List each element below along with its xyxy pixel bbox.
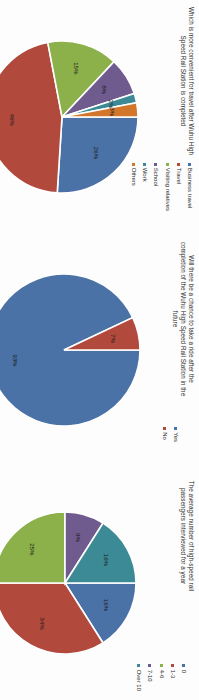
legend-swatch-icon bbox=[148, 664, 151, 667]
chart-legend: YesNo bbox=[161, 427, 179, 442]
legend-item[interactable]: Over 10 bbox=[135, 664, 142, 691]
pie-svg bbox=[0, 41, 138, 193]
legend-swatch-icon bbox=[160, 664, 163, 667]
chart-legend: Business travelTravelVisiting relativesS… bbox=[130, 163, 193, 211]
legend-item-label: Business travel bbox=[186, 168, 193, 209]
pie-chart-container: 16%34%25%9%16% bbox=[0, 466, 136, 699]
legend-swatch-icon bbox=[143, 163, 146, 166]
legend-item-label: Over 10 bbox=[135, 670, 142, 691]
legend-item[interactable]: Travel bbox=[175, 163, 182, 211]
chart-title: The average number of high-speed rail pa… bbox=[179, 476, 195, 596]
chart-title: Will there be a chance to take a ride af… bbox=[170, 239, 195, 399]
legend-item-label: 7-10 bbox=[146, 670, 153, 682]
chart-title: Which is more convenient for travel afte… bbox=[179, 6, 195, 156]
legend-item-label: School bbox=[152, 168, 159, 186]
legend-swatch-icon bbox=[163, 427, 166, 430]
pie-svg bbox=[0, 274, 140, 426]
legend-item[interactable]: Yes bbox=[172, 427, 179, 442]
pie-chart-container: 93%7% bbox=[0, 233, 140, 466]
legend-item[interactable]: 1-3 bbox=[169, 664, 176, 691]
chart-legend: 01-34-67-10Over 10 bbox=[135, 664, 187, 691]
legend-item[interactable]: Business travel bbox=[186, 163, 193, 211]
legend-item[interactable]: 4-6 bbox=[158, 664, 165, 691]
legend-swatch-icon bbox=[137, 664, 140, 667]
pie-chart: 26%46%15%8%2%3% bbox=[0, 41, 138, 193]
legend-swatch-icon bbox=[188, 163, 191, 166]
legend-swatch-icon bbox=[174, 427, 177, 430]
legend-item[interactable]: No bbox=[161, 427, 168, 442]
legend-item-label: Yes bbox=[172, 432, 179, 442]
pie-svg bbox=[0, 512, 136, 654]
legend-item-label: Work bbox=[141, 168, 148, 182]
pie-slice[interactable] bbox=[57, 117, 138, 193]
legend-item-label: 0 bbox=[180, 670, 187, 673]
chart-panel-chance-to-take-ride: Will there be a chance to take a ride af… bbox=[0, 233, 199, 466]
pie-chart: 16%34%25%9%16% bbox=[0, 512, 136, 654]
legend-item[interactable]: Work bbox=[141, 163, 148, 211]
legend-swatch-icon bbox=[182, 664, 185, 667]
legend-item-label: Travel bbox=[175, 168, 182, 184]
legend-item-label: 1-3 bbox=[169, 670, 176, 679]
pie-chart: 93%7% bbox=[0, 274, 140, 426]
legend-item-label: 4-6 bbox=[158, 670, 165, 679]
legend-item[interactable]: School bbox=[152, 163, 159, 211]
legend-swatch-icon bbox=[177, 163, 180, 166]
legend-swatch-icon bbox=[166, 163, 169, 166]
legend-item-label: Visiting relatives bbox=[164, 168, 171, 211]
legend-item[interactable]: 0 bbox=[180, 664, 187, 691]
pie-slice[interactable] bbox=[0, 512, 65, 583]
legend-item[interactable]: 7-10 bbox=[146, 664, 153, 691]
chart-panel-average-rides-per-year: The average number of high-speed rail pa… bbox=[0, 466, 199, 699]
scanned-page: Which is more convenient for travel afte… bbox=[0, 0, 199, 700]
legend-swatch-icon bbox=[171, 664, 174, 667]
chart-panel-purpose-of-travel: Which is more convenient for travel afte… bbox=[0, 0, 199, 233]
legend-swatch-icon bbox=[154, 163, 157, 166]
legend-item-label: No bbox=[161, 432, 168, 440]
pie-chart-container: 26%46%15%8%2%3% bbox=[0, 0, 138, 233]
legend-item[interactable]: Visiting relatives bbox=[164, 163, 171, 211]
